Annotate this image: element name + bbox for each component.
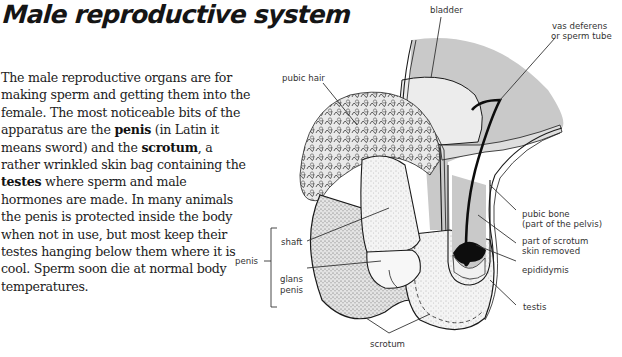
label-shaft: shaft: [281, 237, 303, 247]
anatomy-diagram: bladder vas deferens or sperm tube pubic…: [0, 0, 622, 357]
label-pubic-bone-line2: (part of the pelvis): [522, 219, 602, 229]
label-pubic-bone: pubic bone: [522, 209, 570, 219]
label-pubic-hair: pubic hair: [282, 73, 325, 83]
label-vas-deferens-line2: or sperm tube: [551, 31, 612, 41]
label-epididymis: epididymis: [522, 265, 569, 275]
label-penis: penis: [235, 256, 259, 266]
label-scrotum-skin-line2: skin removed: [522, 246, 580, 256]
label-scrotum-skin: part of scrotum: [522, 236, 588, 246]
label-vas-deferens: vas deferens: [552, 21, 608, 31]
penis-shaft: [361, 156, 420, 255]
label-bladder: bladder: [430, 5, 463, 15]
label-glans: glans: [280, 274, 304, 284]
label-testis: testis: [523, 302, 547, 312]
label-scrotum: scrotum: [370, 339, 405, 349]
label-glans-line2: penis: [280, 285, 304, 295]
